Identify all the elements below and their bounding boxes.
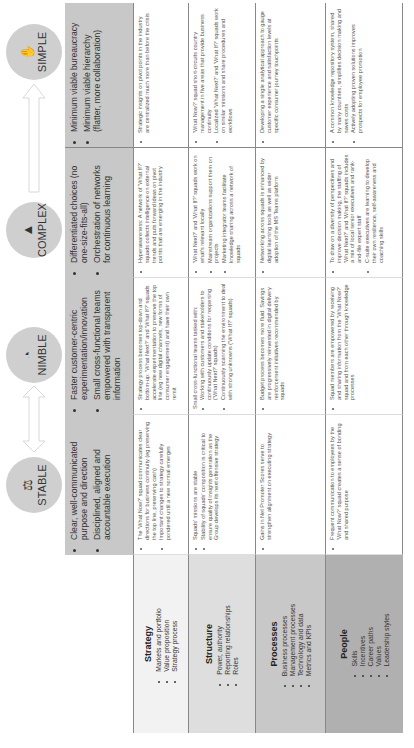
row-label-structure: Structure Power, authorityReporting rela…: [188, 555, 255, 733]
row-label-processes: Processes Business processesManagement p…: [255, 555, 325, 733]
cell-people-simple: A common knowledge repository system, sh…: [325, 3, 403, 148]
cell-point: Squad members are empowered by receiving…: [329, 283, 356, 400]
cell-strategy-simple: Strategic insights on pivot points in th…: [133, 3, 188, 148]
header-point: Clear, well-communicated purpose and dir…: [69, 421, 89, 540]
cell-point: Important changes to strategy carefully …: [158, 420, 172, 540]
cell-processes-stable: Gains in Net Promoter Scores serve to st…: [255, 415, 325, 555]
header-point: Small cross-functional teams empowered w…: [92, 284, 122, 400]
row-title: Structure: [204, 624, 214, 664]
row-item: Strategy process: [171, 608, 179, 671]
cell-point: Hyperawareness: A network of 'What If?' …: [137, 153, 164, 263]
header-point: Faster customer-centric experimentation/…: [69, 284, 89, 400]
row-title: Processes: [269, 621, 279, 666]
simple-label: SIMPLE: [36, 32, 48, 72]
row-item: Incentives: [359, 614, 367, 667]
cell-point: Stability of squads' composition is crit…: [200, 420, 220, 540]
cell-processes-complex: Networking across squads is enhanced by …: [255, 148, 325, 278]
row-item: Business processes: [281, 604, 289, 677]
cell-strategy-complex: Hyperawareness: A network of 'What If?' …: [133, 148, 188, 278]
simple-header: Minimum viable bureaucracyMinimum viable…: [65, 3, 133, 148]
cell-point: Strategy process becomes top-down and bo…: [137, 283, 178, 400]
row-item: Reporting relationships: [224, 605, 232, 675]
row-item: Roles: [232, 605, 240, 675]
complex-header: Differentiated choices (no one-size-fits…: [65, 148, 133, 278]
row-label-people: People SkillsIncentivesCareer pathsValue…: [325, 555, 403, 733]
nimble-label: NIMBLE: [36, 335, 48, 376]
agility-framework-diagram: ⚖ STABLE ◔ NIMBLE ▲ COMPLEX ✋ SIMPLE Cle…: [0, 0, 414, 748]
complex-label: COMPLEX: [36, 203, 48, 257]
stable-label: STABLE: [36, 464, 48, 505]
cell-point: Squads' missions are stable: [192, 420, 199, 540]
cell-point: Gains in Net Promoter Scores serve to st…: [259, 420, 273, 540]
cell-processes-simple: Developing a single analytical approach …: [255, 3, 325, 148]
double-arrow-icon: [22, 385, 46, 453]
cell-point: Working with customers and stakeholders …: [199, 283, 219, 400]
cell-point: Budget process becomes more fluid: Savin…: [259, 283, 286, 400]
cell-point: Developing a single analytical approach …: [259, 8, 279, 133]
cell-structure-stable: Squads' missions are stableStability of …: [188, 415, 255, 555]
row-item: Value proposition: [163, 608, 171, 671]
cell-point: The 'What Now?' squad communicates clear…: [137, 420, 157, 540]
cell-processes-nimble: Budget process becomes more fluid: Savin…: [255, 278, 325, 415]
header-point: Minimum viable bureaucracy: [69, 9, 79, 132]
hand-icon: ✋: [21, 44, 34, 60]
cell-point: Localized 'What Next?' and 'What If?' sq…: [213, 8, 233, 133]
cell-strategy-stable: The 'What Now?' squad communicates clear…: [133, 415, 188, 555]
row-title: Strategy: [143, 626, 153, 662]
arrow-right-icon: [22, 83, 46, 193]
simple-circle: ✋ SIMPLE: [6, 24, 62, 80]
stopwatch-icon: ◔: [21, 351, 34, 359]
row-item: Metrics and KPIs: [305, 604, 313, 677]
stable-circle: ⚖ STABLE: [6, 457, 62, 513]
row-item: Management processes: [289, 604, 297, 677]
row-title: People: [339, 629, 349, 659]
cell-point: Strategic insights on pivot points in th…: [137, 8, 151, 133]
cell-point: Marketing integrator teams facilitate kn…: [221, 153, 241, 263]
balance-icon: ⚖: [21, 479, 34, 491]
header-point: Disciplined, aligned and accountable exe…: [92, 421, 112, 540]
cell-structure-complex: 'What Next?' and 'What If?' squads work …: [188, 148, 255, 278]
cell-intro: Small cross-functional teams tasked with…: [192, 283, 199, 409]
cell-people-complex: To draw on a diversity of perspectives a…: [325, 148, 403, 278]
cell-point: Actively adopting proven solutions impro…: [350, 8, 364, 133]
header-point: Differentiated choices (no one-size-fits…: [69, 154, 89, 263]
row-item: Leadership styles: [383, 614, 391, 667]
cell-strategy-nimble: Strategy process becomes top-down and bo…: [133, 278, 188, 415]
triangle-icon: ▲: [21, 224, 34, 237]
row-item: Skills: [351, 614, 359, 667]
row-item: Power, authority: [216, 605, 224, 675]
cell-point: C-suite executives are learning to devel…: [364, 153, 384, 263]
complex-circle: ▲ COMPLEX: [6, 202, 62, 258]
row-item: Technology and data: [297, 604, 305, 677]
cell-structure-simple: 'What Now?' squad short-circuits country…: [188, 3, 255, 148]
cell-point: A common knowledge repository system, sh…: [329, 8, 349, 133]
cell-people-nimble: Squad members are empowered by receiving…: [325, 278, 403, 415]
row-item: Markets and portfolio: [155, 608, 163, 671]
cell-point: Frequent communication to employees by t…: [329, 420, 349, 540]
cell-point: Mainstream organizations support them on…: [207, 153, 221, 263]
cell-point: Continuously scanning the environment to…: [220, 283, 234, 400]
nimble-circle: ◔ NIMBLE: [6, 327, 62, 383]
header-point: Orchestration of networks for continuous…: [92, 154, 112, 263]
header-point: Minimum viable hierarchy (flatter, more …: [82, 9, 102, 132]
cell-point: Networking across squads is enhanced by …: [259, 153, 279, 263]
cell-people-stable: Frequent communication to employees by t…: [325, 415, 403, 555]
stable-header: Clear, well-communicated purpose and dir…: [65, 415, 133, 555]
row-item: Values: [375, 614, 383, 667]
nimble-header: Faster customer-centric experimentation/…: [65, 278, 133, 415]
cell-point: 'What Next?' and 'What If?' squads work …: [192, 153, 206, 263]
row-label-strategy: Strategy Markets and portfolioValue prop…: [133, 555, 188, 733]
cell-point: 'What Now?' squad short-circuits country…: [192, 8, 212, 133]
cell-point: To draw on a diversity of perspectives a…: [329, 153, 363, 263]
cell-structure-nimble: Small cross-functional teams tasked with…: [188, 278, 255, 415]
row-item: Career paths: [367, 614, 375, 667]
